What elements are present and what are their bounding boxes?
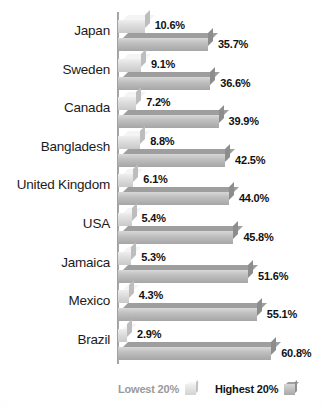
bar-side-face [257,298,262,316]
bar-side-face [131,242,136,260]
bar-side-face [219,105,224,123]
bar-lowest20-usa [118,213,132,226]
bar-highest20-brazil [118,347,271,360]
bar-lowest20-jamaica [118,252,131,265]
chart-row: Mexico4.3%55.1% [0,284,322,322]
value-label-lowest20: 9.1% [151,58,175,70]
bar-highest20-canada [118,115,219,128]
bar-highest20-mexico [118,308,257,321]
chart-row: Sweden9.1%36.6% [0,53,322,91]
bar-side-face [233,221,238,239]
bar-front-face [118,97,136,110]
legend-label: Lowest 20% [118,383,179,395]
value-label-lowest20: 2.9% [137,328,161,340]
bar-front-face [118,290,129,303]
value-label-lowest20: 4.3% [139,289,163,301]
chart-row: Japan10.6%35.7% [0,14,322,52]
bar-lowest20-brazil [118,329,127,342]
bar-front-face [118,252,131,265]
category-label-mexico: Mexico [0,293,110,308]
category-label-bangladesh: Bangladesh [0,139,110,154]
category-label-brazil: Brazil [0,332,110,347]
bar-front-face [118,20,145,33]
bar-side-face [208,28,213,46]
bar-lowest20-bangladesh [118,136,140,149]
value-label-lowest20: 5.4% [142,212,166,224]
bar-highest20-sweden [118,77,210,90]
legend-label: Highest 20% [215,383,278,395]
bar-side-face [136,87,141,105]
bar-front-face [118,59,141,72]
bar-lowest20-sweden [118,59,141,72]
bar-lowest20-japan [118,20,145,33]
chart-row: Canada7.2%39.9% [0,91,322,129]
value-label-highest20: 36.6% [220,77,250,89]
bar-front-face [118,174,133,187]
bar-front-face [118,213,132,226]
bar-side-face [210,67,215,85]
bar-side-face [140,126,145,144]
value-label-highest20: 35.7% [218,38,248,50]
bar-front-face [118,270,248,283]
chart-row: Jamaica5.3%51.6% [0,246,322,284]
bar-chart: Japan10.6%35.7%Sweden9.1%36.6%Canada7.2%… [0,0,322,408]
bar-side-face [248,260,253,278]
category-label-usa: USA [0,216,110,231]
bar-side-face [229,182,234,200]
value-label-highest20: 39.9% [229,115,259,127]
value-label-lowest20: 8.8% [150,135,174,147]
legend-swatch-cube-icon [185,382,198,395]
bar-highest20-japan [118,38,208,51]
value-label-highest20: 60.8% [281,347,311,359]
bar-front-face [118,308,257,321]
bar-front-face [118,154,225,167]
value-label-highest20: 45.8% [243,231,273,243]
value-label-lowest20: 6.1% [143,173,167,185]
bar-side-face [129,280,134,298]
bar-side-face [132,203,137,221]
plot-area: Japan10.6%35.7%Sweden9.1%36.6%Canada7.2%… [0,0,322,408]
chart-row: USA5.4%45.8% [0,207,322,245]
value-label-highest20: 51.6% [258,270,288,282]
chart-row: Bangladesh8.8%42.5% [0,130,322,168]
category-label-united-kingdom: United Kingdom [0,177,110,192]
value-label-highest20: 42.5% [235,154,265,166]
value-label-highest20: 55.1% [267,308,297,320]
bar-lowest20-united-kingdom [118,174,133,187]
value-label-lowest20: 10.6% [155,19,185,31]
legend-item-high[interactable]: Highest 20% [215,382,297,395]
chart-legend: Lowest 20%Highest 20% [0,378,322,402]
value-label-highest20: 44.0% [239,192,269,204]
bar-side-face [225,144,230,162]
bar-front-face [118,329,127,342]
bar-side-face [133,164,138,182]
bar-side-face [271,337,276,355]
chart-row: United Kingdom6.1%44.0% [0,168,322,206]
category-label-jamaica: Jamaica [0,255,110,270]
legend-swatch-cube-icon [284,382,297,395]
chart-row: Brazil2.9%60.8% [0,323,322,361]
legend-item-low[interactable]: Lowest 20% [118,382,198,395]
category-label-canada: Canada [0,100,110,115]
category-label-sweden: Sweden [0,62,110,77]
bar-highest20-jamaica [118,270,248,283]
value-label-lowest20: 7.2% [146,96,170,108]
bar-highest20-bangladesh [118,154,225,167]
bar-front-face [118,77,210,90]
bar-lowest20-mexico [118,290,129,303]
bar-side-face [127,319,132,337]
bar-lowest20-canada [118,97,136,110]
bar-front-face [118,136,140,149]
category-label-japan: Japan [0,23,110,38]
bar-front-face [118,347,271,360]
bar-front-face [118,38,208,51]
value-label-lowest20: 5.3% [141,251,165,263]
bar-side-face [145,10,150,28]
bar-front-face [118,115,219,128]
